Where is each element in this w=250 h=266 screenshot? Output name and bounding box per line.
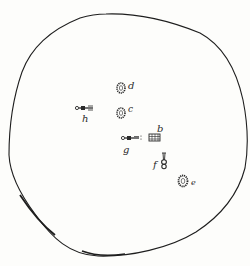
oval-ring-icon-d <box>117 83 125 93</box>
label-b: b <box>157 124 163 134</box>
figure-canvas: d c h b g f e <box>0 0 250 266</box>
label-h: h <box>82 114 88 124</box>
label-c: c <box>128 104 133 114</box>
oval-ring-icon-c <box>117 108 125 118</box>
label-f: f <box>153 160 157 170</box>
outline-svg <box>0 0 250 266</box>
key-icon-h <box>75 106 93 110</box>
label-d: d <box>128 81 134 91</box>
enclosure-outline <box>9 14 247 256</box>
outline-thick-segment <box>20 195 55 235</box>
label-e: e <box>191 178 196 188</box>
grid-block-icon-b <box>149 134 160 141</box>
oval-ring-icon-e <box>179 176 188 187</box>
bottle-icon-f <box>162 153 167 169</box>
label-g: g <box>123 145 129 155</box>
key-icon-g <box>121 135 141 140</box>
